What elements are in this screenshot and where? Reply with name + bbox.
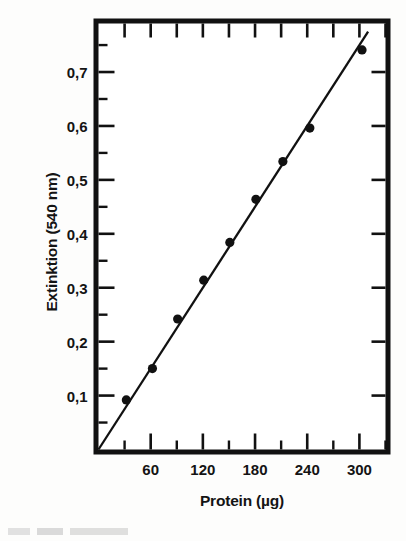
y-tick-label: 0,5: [67, 172, 88, 189]
data-point: [173, 314, 182, 323]
data-point: [122, 395, 131, 404]
x-axis-tick-labels: 60120180240300: [142, 461, 372, 478]
x-tick-label: 120: [190, 461, 215, 478]
y-tick-label: 0,1: [67, 388, 88, 405]
x-tick-label: 240: [295, 461, 320, 478]
x-tick-label: 60: [142, 461, 159, 478]
y-tick-label: 0,4: [67, 226, 89, 243]
figure-container: Extinktion (540 nm) Protein (µg) 0,10,20…: [0, 0, 406, 541]
y-tick-label: 0,3: [67, 280, 88, 297]
y-tick-label: 0,2: [67, 334, 88, 351]
data-point: [305, 124, 314, 133]
page-edge-artifact: [8, 528, 128, 535]
y-tick-label: 0,6: [67, 118, 88, 135]
y-axis-tick-labels: 0,10,20,30,40,50,60,7: [67, 64, 89, 405]
data-point: [278, 157, 287, 166]
data-point: [148, 364, 157, 373]
data-point: [357, 45, 366, 54]
data-point: [199, 276, 208, 285]
x-tick-label: 180: [243, 461, 268, 478]
data-point: [251, 195, 260, 204]
x-tick-label: 300: [347, 461, 372, 478]
chart-plot-area: 0,10,20,30,40,50,60,7 60120180240300: [0, 0, 406, 541]
data-point: [225, 238, 234, 247]
y-tick-label: 0,7: [67, 64, 88, 81]
